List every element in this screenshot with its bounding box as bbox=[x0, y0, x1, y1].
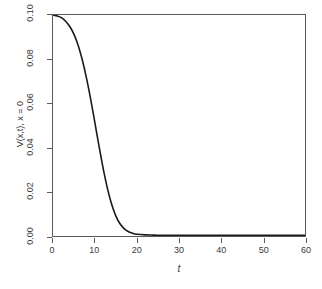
y-axis-tick-label: 0.06 bbox=[25, 87, 35, 117]
data-curve-svg bbox=[53, 15, 305, 236]
x-axis-tick-label: 0 bbox=[37, 245, 67, 255]
x-axis-title: t bbox=[52, 263, 306, 274]
x-axis-tick-mark bbox=[52, 238, 53, 243]
y-axis-tick-label: 0.02 bbox=[25, 176, 35, 206]
x-axis-tick-label: 10 bbox=[79, 245, 109, 255]
x-axis-tick-mark bbox=[221, 238, 222, 243]
x-axis-tick-label: 50 bbox=[249, 245, 279, 255]
y-axis-tick-label: 0.08 bbox=[25, 43, 35, 73]
y-axis-tick-label: 0.10 bbox=[25, 0, 35, 28]
series-line-v-x-t bbox=[53, 15, 305, 235]
chart-figure: 0.000.020.040.060.080.10 0102030405060 V… bbox=[0, 0, 322, 289]
x-axis-tick-label: 20 bbox=[122, 245, 152, 255]
y-axis-tick-label: 0.00 bbox=[25, 221, 35, 251]
x-axis-tick-mark bbox=[179, 238, 180, 243]
x-axis-tick-mark bbox=[94, 238, 95, 243]
plot-area bbox=[52, 14, 306, 237]
y-axis-tick-label: 0.04 bbox=[25, 132, 35, 162]
x-axis-tick-label: 40 bbox=[206, 245, 236, 255]
y-axis-title: V(x,t), x = 0 bbox=[15, 69, 25, 179]
x-axis-tick-mark bbox=[264, 238, 265, 243]
x-axis-tick-mark bbox=[306, 238, 307, 243]
x-axis-tick-mark bbox=[137, 238, 138, 243]
x-axis-tick-label: 60 bbox=[291, 245, 321, 255]
x-axis-tick-label: 30 bbox=[164, 245, 194, 255]
